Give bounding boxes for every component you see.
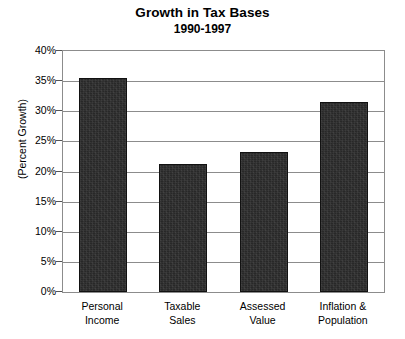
y-axis-tick-mark [56, 50, 62, 51]
y-axis-tick-mark [56, 80, 62, 81]
y-axis-tick-mark [56, 171, 62, 172]
x-axis-category-label: Assessed Value [223, 300, 303, 327]
y-axis-tick-label: 20% [10, 166, 56, 176]
x-axis-category-label: Inflation & Population [303, 300, 383, 327]
y-axis-tick-mark [56, 261, 62, 262]
x-axis-category-label: Taxable Sales [142, 300, 222, 327]
plot-area [62, 50, 385, 293]
y-axis-tick-label: 30% [10, 105, 56, 115]
bar [240, 152, 288, 292]
y-axis-tick-label: 0% [10, 286, 56, 296]
bar [320, 102, 368, 292]
y-axis-tick-label: 10% [10, 226, 56, 236]
y-axis-tick-mark [56, 110, 62, 111]
y-axis-tick-label: 5% [10, 256, 56, 266]
y-axis-tick-mark [56, 140, 62, 141]
bar-chart-figure: Growth in Tax Bases 1990-1997 (Percent G… [0, 0, 405, 339]
x-axis-category-label: Personal Income [62, 300, 142, 327]
y-axis-tick-mark [56, 291, 62, 292]
chart-title: Growth in Tax Bases [0, 5, 405, 21]
y-axis-tick-label: 35% [10, 75, 56, 85]
y-axis-tick-label: 25% [10, 135, 56, 145]
y-axis-tick-label: 40% [10, 45, 56, 55]
bar [159, 164, 207, 292]
bar [79, 78, 127, 292]
chart-subtitle: 1990-1997 [0, 22, 405, 37]
y-axis-tick-label: 15% [10, 196, 56, 206]
y-axis-tick-mark [56, 231, 62, 232]
y-axis-tick-mark [56, 201, 62, 202]
